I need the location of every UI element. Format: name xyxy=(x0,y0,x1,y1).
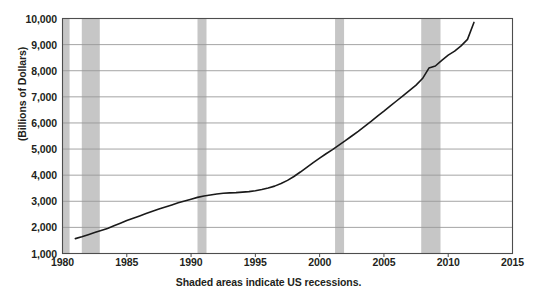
data-series-line xyxy=(75,22,474,238)
x-tick-label: 2015 xyxy=(501,256,524,268)
x-tick-label: 1990 xyxy=(180,256,203,268)
plot-area xyxy=(0,0,537,295)
x-tick-label: 1985 xyxy=(115,256,138,268)
recession-band xyxy=(63,19,70,254)
recession-band xyxy=(335,19,344,254)
chart-caption: Shaded areas indicate US recessions. xyxy=(0,276,537,288)
gridlines xyxy=(63,45,513,228)
x-tick-label: 1980 xyxy=(51,256,74,268)
axes-frame xyxy=(63,19,513,254)
recession-band xyxy=(198,19,207,254)
recession-band xyxy=(82,19,100,254)
x-axis-tick-labels: 19801985199019952000200520102015 xyxy=(0,256,537,276)
x-tick-label: 2000 xyxy=(308,256,331,268)
recession-band xyxy=(421,19,440,254)
x-tick-label: 1995 xyxy=(244,256,267,268)
plot-frame xyxy=(63,19,513,254)
chart-figure: (Billions of Dollars) 1,0002,0003,0004,0… xyxy=(0,0,537,295)
x-tick-label: 2010 xyxy=(437,256,460,268)
x-tick-label: 2005 xyxy=(372,256,395,268)
recession-bands xyxy=(63,19,441,254)
